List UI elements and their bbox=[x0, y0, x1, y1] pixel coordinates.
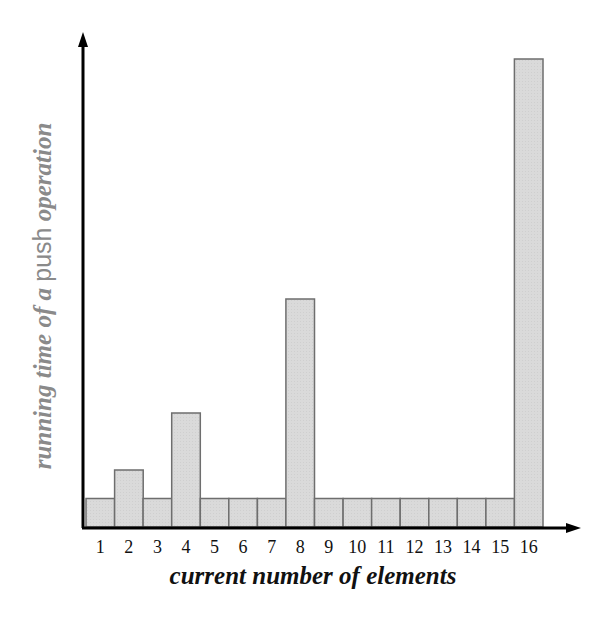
x-tick-label: 8 bbox=[285, 537, 315, 558]
x-tick-label: 10 bbox=[342, 537, 372, 558]
bar-10 bbox=[343, 499, 372, 528]
x-tick-label: 16 bbox=[514, 537, 544, 558]
y-axis-label-part-3: operation bbox=[29, 123, 56, 228]
x-tick-label: 11 bbox=[371, 537, 401, 558]
bar-14 bbox=[457, 499, 486, 528]
x-tick-label: 5 bbox=[200, 537, 230, 558]
x-tick-label: 12 bbox=[400, 537, 430, 558]
x-tick-label: 13 bbox=[428, 537, 458, 558]
x-tick-label: 3 bbox=[142, 537, 172, 558]
x-tick-label: 1 bbox=[85, 537, 115, 558]
bar-13 bbox=[429, 499, 458, 528]
y-axis-label: running time of a push operation bbox=[28, 123, 57, 470]
y-axis-label-part-1: running time of a bbox=[29, 282, 56, 470]
bar-2 bbox=[115, 470, 144, 527]
chart-canvas bbox=[0, 0, 609, 620]
bar-16 bbox=[514, 59, 543, 527]
y-axis-arrow-icon bbox=[78, 32, 88, 47]
x-tick-label: 2 bbox=[114, 537, 144, 558]
bar-5 bbox=[200, 499, 229, 528]
bars-group bbox=[86, 59, 543, 527]
x-axis-label: current number of elements bbox=[170, 562, 457, 590]
x-tick-label: 6 bbox=[228, 537, 258, 558]
bar-7 bbox=[257, 499, 286, 528]
bar-4 bbox=[172, 413, 201, 527]
y-axis-label-part-2: push bbox=[28, 228, 56, 282]
bar-8 bbox=[286, 299, 315, 527]
x-tick-label: 9 bbox=[314, 537, 344, 558]
x-tick-label: 15 bbox=[485, 537, 515, 558]
x-tick-label: 7 bbox=[257, 537, 287, 558]
bar-9 bbox=[315, 499, 344, 528]
x-tick-label: 4 bbox=[171, 537, 201, 558]
bar-12 bbox=[400, 499, 429, 528]
bar-15 bbox=[486, 499, 515, 528]
x-axis-arrow-icon bbox=[566, 523, 581, 533]
bar-3 bbox=[143, 499, 172, 528]
bar-chart: 12345678910111213141516 running time of … bbox=[0, 0, 609, 620]
bar-6 bbox=[229, 499, 258, 528]
x-tick-label: 14 bbox=[457, 537, 487, 558]
bar-11 bbox=[372, 499, 401, 528]
bar-1 bbox=[86, 499, 115, 528]
